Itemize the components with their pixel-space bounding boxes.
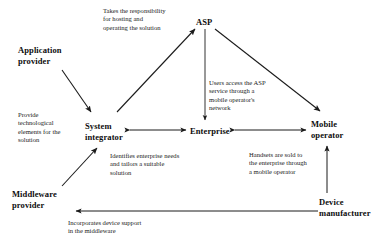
edge-application-provider-to-system-integrator — [62, 70, 91, 112]
node-middleware-provider[interactable]: Middleware provider — [12, 189, 57, 210]
annotation-identifies-needs-note: Identifies enterprise needs and tailors … — [110, 152, 179, 177]
node-asp[interactable]: ASP — [196, 17, 212, 28]
annotation-handsets-sold-note: Handsets are sold to the enterprise thro… — [249, 151, 307, 176]
annotation-asp-hosting-note: Takes the responsibility for hosting and… — [103, 7, 166, 32]
node-system-integrator[interactable]: System integrator — [85, 121, 123, 142]
annotation-users-access-note: Users access the ASP service through a m… — [209, 79, 266, 112]
annotation-incorporates-device-note: Incorporates device support in the middl… — [68, 219, 141, 236]
node-application-provider[interactable]: Application provider — [18, 45, 62, 66]
node-device-manufacturer[interactable]: Device manufacturer — [319, 197, 371, 218]
annotation-provide-technology-note: Provide technological elements for the s… — [18, 111, 60, 144]
node-enterprise[interactable]: Enterprise — [190, 126, 230, 137]
node-mobile-operator[interactable]: Mobile operator — [311, 119, 343, 140]
diagram-canvas: Application provider ASP System integrat… — [0, 0, 388, 250]
edge-middleware-provider-to-system-integrator — [62, 148, 97, 186]
edge-system-integrator-to-asp — [117, 29, 195, 112]
